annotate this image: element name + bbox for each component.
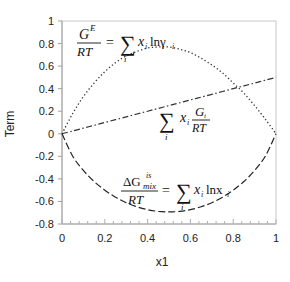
y-tick-label: 0.4 [39, 83, 54, 95]
y-axis-title: Term [3, 111, 17, 138]
svg-text:RT: RT [76, 44, 93, 59]
chart: 10.80.60.40.20-0.2-0.4-0.6-0.8 00.20.40.… [0, 0, 290, 282]
svg-text:i: i [201, 190, 203, 199]
y-tick-label: -0.4 [35, 173, 54, 185]
annotation-ideal-mixing: ΔG is mix RT = ∑ i x i lnx i [121, 171, 229, 212]
y-tick-labels: 10.80.60.40.20-0.2-0.4-0.6-0.8 [35, 15, 54, 230]
annotation-pure-component-sum: ∑ i x i G i RT [159, 104, 210, 142]
svg-text:RT: RT [191, 121, 207, 135]
svg-text:lnx: lnx [206, 182, 223, 197]
y-tick-label: -0.8 [35, 218, 54, 230]
x-tick-label: 0 [59, 232, 65, 244]
svg-text:∑: ∑ [120, 31, 136, 56]
svg-text:i: i [204, 112, 206, 120]
svg-text:i: i [165, 132, 168, 142]
svg-text:=: = [162, 183, 170, 198]
x-tick-label: 0.8 [226, 232, 241, 244]
svg-text:G: G [79, 27, 89, 42]
svg-text:x: x [137, 34, 145, 49]
y-tick-marks [58, 21, 62, 224]
y-tick-label: 0.2 [39, 105, 54, 117]
svg-text:∑: ∑ [159, 108, 175, 133]
svg-text:lnγ: lnγ [150, 34, 166, 49]
svg-text:i: i [145, 42, 147, 51]
svg-text:i: i [187, 118, 189, 127]
x-tick-label: 0.2 [97, 232, 112, 244]
y-tick-label: 0.6 [39, 60, 54, 72]
svg-text:mix: mix [143, 181, 156, 191]
y-tick-label: 1 [48, 15, 54, 27]
svg-text:x: x [193, 182, 201, 197]
series-ideal-mixing-line [62, 134, 276, 212]
svg-text:x: x [179, 110, 187, 125]
y-tick-label: 0 [48, 128, 54, 140]
svg-text:ΔG: ΔG [123, 174, 141, 189]
svg-text:RT: RT [127, 192, 144, 207]
x-tick-marks [62, 219, 276, 224]
svg-text:i: i [172, 42, 174, 51]
x-tick-labels: 00.20.40.60.81 [59, 232, 279, 244]
x-tick-label: 0.6 [183, 232, 198, 244]
svg-text:E: E [89, 23, 96, 33]
x-tick-label: 0.4 [140, 232, 155, 244]
svg-text:=: = [106, 35, 114, 50]
svg-text:is: is [146, 171, 151, 180]
svg-text:∑: ∑ [176, 179, 192, 204]
x-tick-label: 1 [273, 232, 279, 244]
svg-text:i: i [227, 190, 229, 199]
annotation-excess-gibbs: G E RT = ∑ i x i lnγ i [76, 23, 174, 64]
y-tick-label: -0.6 [35, 195, 54, 207]
y-tick-label: 0.8 [39, 38, 54, 50]
x-axis-title: x1 [156, 255, 169, 269]
y-tick-label: -0.2 [35, 150, 54, 162]
